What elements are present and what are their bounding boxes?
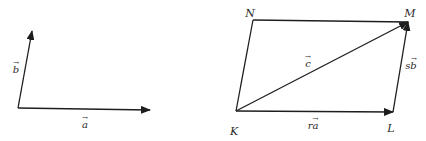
- segment-NM: [253, 20, 408, 22]
- vector-diagram: [0, 0, 426, 141]
- vector-c-label: → c: [305, 54, 311, 69]
- vector-a-line: [18, 108, 150, 110]
- vector-b-label: → b: [13, 60, 19, 75]
- vector-ra-label: → ra: [308, 116, 319, 131]
- vector-c-line: [236, 22, 408, 111]
- left-figure: [18, 31, 150, 110]
- vector-c-text: c: [305, 58, 311, 69]
- vector-ra-line: [236, 111, 393, 112]
- vector-a-label: → a: [82, 115, 88, 130]
- point-K-label: K: [230, 126, 238, 137]
- right-figure: [236, 20, 408, 112]
- point-L-label: L: [387, 123, 394, 134]
- vector-ra-text: ra: [308, 120, 319, 131]
- vector-sb-label: → sb: [405, 56, 417, 71]
- vector-a-text: a: [82, 119, 88, 130]
- segment-KN: [236, 20, 253, 111]
- vector-sb-text: sb: [405, 60, 417, 71]
- point-N-label: N: [245, 8, 255, 19]
- vector-b-line: [18, 31, 32, 108]
- point-M-label: M: [404, 8, 415, 19]
- vector-b-text: b: [13, 64, 19, 75]
